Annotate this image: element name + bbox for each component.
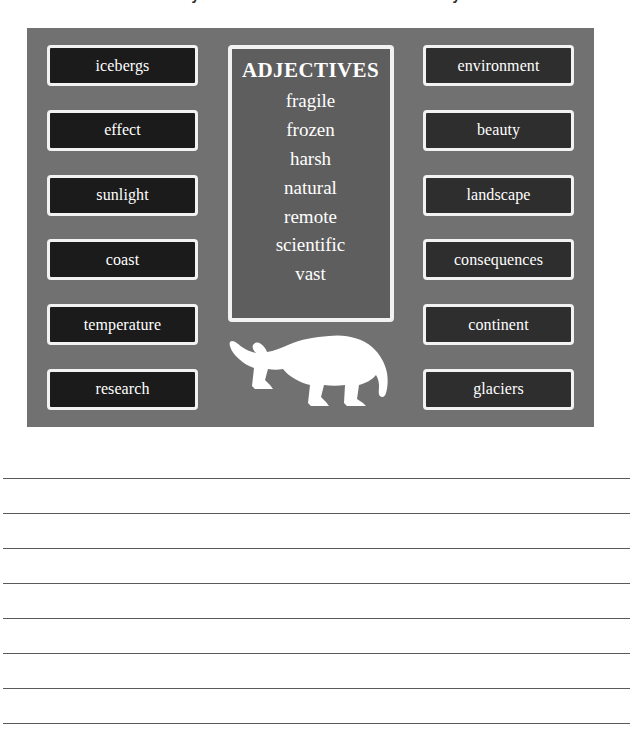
poster-content: icebergs effect sunlight coast temperatu… bbox=[27, 28, 594, 427]
writing-line[interactable] bbox=[3, 618, 630, 619]
clipped-header-text: Antarctica Vocabulary — use the word ban… bbox=[0, 0, 639, 5]
word-label: sunlight bbox=[96, 187, 148, 203]
adjective-item[interactable]: scientific bbox=[276, 231, 346, 260]
writing-line[interactable] bbox=[3, 688, 630, 689]
adjective-item[interactable]: harsh bbox=[290, 145, 331, 174]
word-box-research[interactable]: research bbox=[47, 369, 198, 410]
word-label: research bbox=[95, 381, 149, 397]
word-box-coast[interactable]: coast bbox=[47, 239, 198, 280]
word-box-sunlight[interactable]: sunlight bbox=[47, 175, 198, 216]
right-word-column: environment beauty landscape consequence… bbox=[423, 45, 574, 410]
writing-line[interactable] bbox=[3, 583, 630, 584]
adjective-item[interactable]: natural bbox=[284, 174, 337, 203]
writing-line[interactable] bbox=[3, 548, 630, 549]
writing-lines-area bbox=[0, 440, 639, 746]
writing-line[interactable] bbox=[3, 478, 630, 479]
word-label: continent bbox=[468, 317, 528, 333]
word-box-glaciers[interactable]: glaciers bbox=[423, 369, 574, 410]
word-box-landscape[interactable]: landscape bbox=[423, 175, 574, 216]
word-box-effect[interactable]: effect bbox=[47, 110, 198, 151]
adjective-item[interactable]: fragile bbox=[286, 87, 336, 116]
word-bank-poster: icebergs effect sunlight coast temperatu… bbox=[27, 28, 594, 427]
word-box-icebergs[interactable]: icebergs bbox=[47, 45, 198, 86]
word-box-consequences[interactable]: consequences bbox=[423, 239, 574, 280]
word-box-continent[interactable]: continent bbox=[423, 304, 574, 345]
word-label: icebergs bbox=[96, 58, 150, 74]
word-box-environment[interactable]: environment bbox=[423, 45, 574, 86]
word-label: coast bbox=[106, 252, 139, 268]
word-label: beauty bbox=[477, 122, 520, 138]
word-label: glaciers bbox=[473, 381, 524, 397]
writing-line[interactable] bbox=[3, 513, 630, 514]
word-label: environment bbox=[458, 58, 540, 74]
polar-bear-illustration bbox=[227, 333, 395, 409]
writing-line[interactable] bbox=[3, 653, 630, 654]
adjective-item[interactable]: remote bbox=[284, 203, 337, 232]
center-column: ADJECTIVES fragile frozen harsh natural … bbox=[227, 45, 395, 410]
word-label: landscape bbox=[467, 187, 531, 203]
word-box-temperature[interactable]: temperature bbox=[47, 304, 198, 345]
polar-bear-icon bbox=[229, 333, 392, 407]
adjectives-panel: ADJECTIVES fragile frozen harsh natural … bbox=[228, 45, 394, 322]
word-label: effect bbox=[104, 122, 141, 138]
adjectives-panel-title: ADJECTIVES bbox=[242, 58, 379, 83]
left-word-column: icebergs effect sunlight coast temperatu… bbox=[47, 45, 198, 410]
word-label: temperature bbox=[84, 317, 162, 333]
word-label: consequences bbox=[454, 252, 543, 268]
adjective-item[interactable]: frozen bbox=[286, 116, 335, 145]
writing-line[interactable] bbox=[3, 723, 630, 724]
adjective-item[interactable]: vast bbox=[295, 260, 326, 289]
word-box-beauty[interactable]: beauty bbox=[423, 110, 574, 151]
